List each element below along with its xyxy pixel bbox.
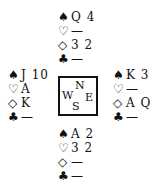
spade-icon: ♠ [58,10,71,24]
west-diamonds: ◇K [8,96,49,110]
compass-east: E [85,92,93,103]
club-icon: ♣ [58,169,71,183]
diamond-icon: ◇ [58,38,71,52]
north-hearts: ♡— [58,24,95,38]
spade-icon: ♠ [113,68,126,82]
south-hand: ♠A 2 ♡3 2 ◇— ♣— [58,127,94,183]
heart-icon: ♡ [113,82,126,96]
heart-icon: ♡ [58,24,71,38]
compass-north: N [75,80,85,91]
heart-icon: ♡ [8,82,21,96]
diamond-icon: ◇ [58,155,71,169]
west-hearts: ♡A [8,82,49,96]
east-diamonds: ◇A Q [113,96,151,110]
east-hand: ♠K 3 ♡— ◇A Q ♣— [113,68,151,124]
diamond-icon: ◇ [113,96,126,110]
north-clubs: ♣— [58,52,95,66]
west-spades: ♠J 10 [8,68,49,82]
west-hand: ♠J 10 ♡A ◇K ♣— [8,68,49,124]
south-spades: ♠A 2 [58,127,94,141]
west-clubs: ♣— [8,110,49,124]
north-hand: ♠Q 4 ♡— ◇3 2 ♣— [58,10,95,66]
club-icon: ♣ [8,110,21,124]
club-icon: ♣ [58,52,71,66]
south-hearts: ♡3 2 [58,141,94,155]
diamond-icon: ◇ [8,96,21,110]
east-hearts: ♡— [113,82,151,96]
spade-icon: ♠ [8,68,21,82]
south-clubs: ♣— [58,169,94,183]
spade-icon: ♠ [58,127,71,141]
east-clubs: ♣— [113,110,151,124]
south-diamonds: ◇— [58,155,94,169]
compass-south: S [72,101,80,112]
east-spades: ♠K 3 [113,68,151,82]
north-diamonds: ◇3 2 [58,38,95,52]
north-spades: ♠Q 4 [58,10,95,24]
club-icon: ♣ [113,110,126,124]
heart-icon: ♡ [58,141,71,155]
compass-box: N W E S [58,76,98,116]
